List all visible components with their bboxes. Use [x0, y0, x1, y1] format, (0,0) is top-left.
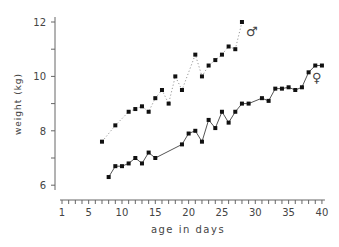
female-point: [240, 102, 244, 106]
female-point: [107, 175, 111, 179]
female-point: [273, 87, 277, 91]
x-tick-label: 30: [249, 207, 262, 218]
x-tick-label: 5: [85, 207, 91, 218]
female-point: [140, 161, 144, 165]
male-point: [133, 107, 137, 111]
female-point: [300, 85, 304, 89]
male-point: [193, 53, 197, 57]
male-point: [100, 140, 104, 144]
male-point: [113, 123, 117, 127]
female-point: [147, 151, 151, 155]
male-point: [233, 47, 237, 51]
female-point: [127, 161, 131, 165]
female-point: [187, 132, 191, 136]
female-point: [247, 102, 251, 106]
female-point: [227, 121, 231, 125]
male-symbol: ♂: [246, 24, 258, 39]
x-tick-label: 10: [116, 207, 129, 218]
female-line: [109, 66, 322, 178]
female-point: [213, 126, 217, 130]
y-tick-label: 12: [33, 17, 46, 28]
female-point: [320, 64, 324, 68]
male-point: [213, 58, 217, 62]
x-tick-label: 35: [282, 207, 295, 218]
female-point: [267, 99, 271, 103]
y-tick-label: 6: [40, 180, 46, 191]
female-point: [207, 118, 211, 122]
x-tick-label: 1: [59, 207, 65, 218]
female-point: [153, 156, 157, 160]
female-point: [260, 96, 264, 100]
male-point: [180, 88, 184, 92]
y-tick-label: 8: [40, 126, 46, 137]
x-tick-label: 20: [182, 207, 195, 218]
female-point: [233, 110, 237, 114]
female-symbol: ♀: [312, 70, 322, 85]
male-point: [240, 20, 244, 24]
female-point: [133, 156, 137, 160]
male-point: [173, 74, 177, 78]
series: [100, 20, 324, 179]
male-point: [140, 104, 144, 108]
x-tick-label: 25: [216, 207, 229, 218]
female-point: [287, 85, 291, 89]
x-axis-label: age in days: [151, 224, 225, 235]
male-point: [153, 96, 157, 100]
male-point: [220, 53, 224, 57]
male-point: [227, 44, 231, 48]
female-point: [113, 164, 117, 168]
female-point: [220, 110, 224, 114]
female-point: [293, 88, 297, 92]
female-point: [280, 87, 284, 91]
male-point: [127, 110, 131, 114]
male-point: [200, 74, 204, 78]
female-point: [200, 140, 204, 144]
female-point: [180, 142, 184, 146]
male-point: [160, 88, 164, 92]
female-point: [313, 64, 317, 68]
y-axis-label: weight (kg): [13, 73, 23, 135]
male-point: [147, 110, 151, 114]
weight-chart: 6810121510152025303540 age in days weigh…: [0, 0, 339, 247]
y-tick-label: 10: [33, 71, 46, 82]
male-point: [207, 64, 211, 68]
male-point: [167, 102, 171, 106]
x-tick-label: 40: [316, 207, 329, 218]
female-point: [307, 70, 311, 74]
male-line: [102, 22, 242, 142]
female-point: [120, 164, 124, 168]
x-tick-label: 15: [149, 207, 162, 218]
female-point: [193, 129, 197, 133]
axes: 6810121510152025303540: [33, 17, 328, 218]
